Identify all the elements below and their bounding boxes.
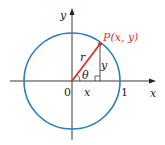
- point-p: [98, 42, 102, 46]
- point-label: P(x, y): [102, 31, 138, 44]
- x-axis-label: x: [150, 87, 157, 100]
- angle-label: θ: [82, 69, 89, 82]
- right-angle-marker: [95, 76, 100, 81]
- leg-y-label: y: [100, 59, 108, 72]
- leg-x-label: x: [84, 86, 91, 99]
- angle-arc: [77, 75, 80, 82]
- origin-label: 0: [64, 86, 71, 99]
- x-axis-arrow-icon: [149, 79, 156, 84]
- radius-label: r: [80, 51, 86, 64]
- y-axis-label: y: [59, 9, 67, 22]
- y-axis-arrow-icon: [70, 8, 75, 15]
- unit-circle-diagram: y x 0 1 P(x, y) r θ y x: [0, 0, 165, 145]
- one-label: 1: [121, 86, 128, 99]
